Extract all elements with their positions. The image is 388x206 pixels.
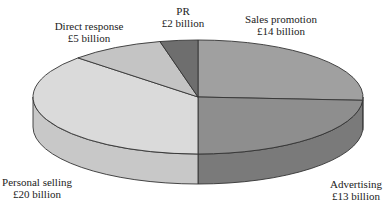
label-advertising: Advertising £13 billion [324,178,388,202]
label-direct-response-name: Direct response [44,20,134,32]
pie-slice-sales-promotion [198,40,363,100]
label-pr: PR £2 billion [150,5,216,29]
label-direct-response-value: £5 billion [44,32,134,44]
label-pr-value: £2 billion [150,17,216,29]
label-personal-selling-name: Personal selling [0,176,74,188]
label-sales-promotion-value: £14 billion [226,25,336,37]
label-advertising-name: Advertising [324,178,388,190]
label-personal-selling: Personal selling £20 billion [0,176,74,200]
label-personal-selling-value: £20 billion [0,188,74,200]
label-pr-name: PR [150,5,216,17]
label-direct-response: Direct response £5 billion [44,20,134,44]
label-advertising-value: £13 billion [324,190,388,202]
label-sales-promotion-name: Sales promotion [226,13,336,25]
label-sales-promotion: Sales promotion £14 billion [226,13,336,37]
